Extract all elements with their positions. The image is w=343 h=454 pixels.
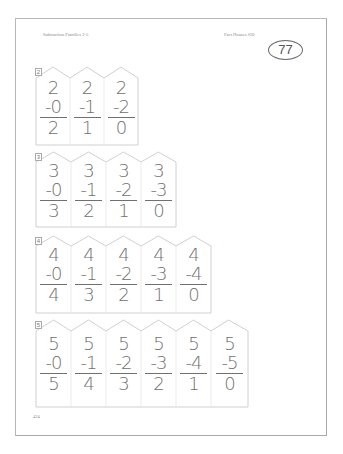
difference: 2 (71, 201, 106, 220)
minuend: 5 (106, 334, 141, 353)
subtrahend: -5 (211, 353, 248, 372)
difference: 1 (70, 118, 104, 137)
subtrahend: -4 (176, 353, 211, 372)
fact-house: 5 -1 4 (71, 334, 106, 393)
lesson-number-badge: 77 (268, 40, 303, 60)
minuend: 3 (71, 161, 106, 180)
subtrahend: -3 (141, 180, 176, 199)
subtrahend: -0 (36, 353, 71, 372)
minuend: 5 (176, 334, 211, 353)
subtrahend: -2 (104, 97, 138, 116)
difference: 1 (141, 285, 176, 304)
minuend: 2 (70, 78, 104, 97)
difference: 3 (36, 201, 71, 220)
difference: 2 (36, 118, 70, 137)
fact-house: 2 -2 0 (104, 78, 138, 137)
minuend: 4 (106, 245, 141, 264)
subtrahend: -2 (106, 264, 141, 283)
fact-house: 2 -1 1 (70, 78, 104, 137)
minuend: 5 (36, 334, 71, 353)
fact-house: 5 -5 0 (211, 334, 248, 393)
fact-house: 4 -1 3 (71, 245, 106, 304)
difference: 2 (141, 374, 176, 393)
fact-house: 3 -3 0 (141, 161, 176, 220)
difference: 5 (36, 374, 71, 393)
difference: 1 (176, 374, 211, 393)
family-number-tag: 3 (35, 153, 42, 161)
minuend: 5 (211, 334, 248, 353)
fact-house: 5 -2 3 (106, 334, 141, 393)
subtrahend: -2 (106, 353, 141, 372)
minuend: 5 (71, 334, 106, 353)
minuend: 2 (36, 78, 70, 97)
difference: 4 (71, 374, 106, 393)
minuend: 2 (104, 78, 138, 97)
difference: 3 (106, 374, 141, 393)
subtrahend: -3 (141, 353, 176, 372)
difference: 0 (211, 374, 248, 393)
difference: 1 (106, 201, 141, 220)
subtrahend: -0 (36, 264, 71, 283)
minuend: 4 (71, 245, 106, 264)
fact-house: 3 -0 3 (36, 161, 71, 220)
family-number-tag: 2 (35, 68, 42, 76)
series-title: Fact Houses #20 (224, 32, 255, 37)
minuend: 3 (106, 161, 141, 180)
subtrahend: -1 (71, 180, 106, 199)
minuend: 4 (141, 245, 176, 264)
fact-house: 4 -2 2 (106, 245, 141, 304)
fact-house: 3 -1 2 (71, 161, 106, 220)
difference: 2 (106, 285, 141, 304)
fact-house: 5 -4 1 (176, 334, 211, 393)
subtrahend: -4 (176, 264, 211, 283)
minuend: 4 (36, 245, 71, 264)
worksheet-title: Subtraction Families 2-5 (43, 32, 88, 37)
difference: 0 (141, 201, 176, 220)
fact-house: 3 -2 1 (106, 161, 141, 220)
page-number: 424 (33, 414, 40, 419)
minuend: 3 (36, 161, 71, 180)
minuend: 5 (141, 334, 176, 353)
subtrahend: -2 (106, 180, 141, 199)
fact-house: 4 -0 4 (36, 245, 71, 304)
subtrahend: -0 (36, 97, 70, 116)
subtrahend: -1 (71, 353, 106, 372)
subtrahend: -3 (141, 264, 176, 283)
difference: 3 (71, 285, 106, 304)
minuend: 4 (176, 245, 211, 264)
fact-house: 4 -4 0 (176, 245, 211, 304)
fact-house: 5 -3 2 (141, 334, 176, 393)
family-number-tag: 5 (35, 321, 42, 329)
subtrahend: -0 (36, 180, 71, 199)
fact-house: 4 -3 1 (141, 245, 176, 304)
difference: 0 (176, 285, 211, 304)
subtrahend: -1 (71, 264, 106, 283)
family-number-tag: 4 (35, 237, 42, 245)
difference: 0 (104, 118, 138, 137)
difference: 4 (36, 285, 71, 304)
fact-house: 5 -0 5 (36, 334, 71, 393)
subtrahend: -1 (70, 97, 104, 116)
minuend: 3 (141, 161, 176, 180)
fact-house: 2 -0 2 (36, 78, 70, 137)
